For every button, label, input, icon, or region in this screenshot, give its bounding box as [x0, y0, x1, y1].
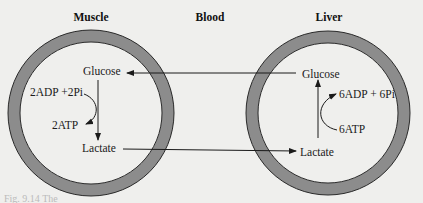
muscle-adp-label: 2ADP +2Pi: [30, 86, 83, 98]
liver-lactate-label: Lactate: [300, 146, 334, 158]
liver-cell: [246, 31, 410, 195]
muscle-cell: [8, 30, 174, 196]
lactate-transport-arrow: [123, 149, 296, 151]
muscle-lactate-label: Lactate: [82, 142, 116, 154]
muscle-glucose-label: Glucose: [83, 65, 121, 77]
figure-caption: Fig. 9.14 The: [4, 193, 58, 203]
atp-generation-arrow: [84, 94, 96, 124]
muscle-header: Muscle: [73, 11, 108, 23]
atp-consumption-arrow: [321, 94, 337, 130]
liver-atp-label: 6ATP: [339, 123, 365, 135]
liver-adp-label: 6ADP + 6Pi: [339, 88, 395, 100]
muscle-atp-label: 2ATP: [52, 119, 78, 131]
cori-cycle-diagram: Muscle Blood Liver Glucose 2ADP +2Pi 2AT…: [0, 0, 423, 203]
liver-glucose-label: Glucose: [302, 68, 340, 80]
liver-header: Liver: [316, 11, 343, 23]
blood-header: Blood: [196, 11, 225, 23]
